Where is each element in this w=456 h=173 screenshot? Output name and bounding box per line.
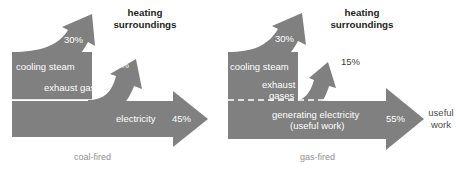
panel-gas-fired: heating surroundings 30% cooling steam 1… — [228, 0, 456, 173]
coal-electricity-percent: 45% — [172, 114, 191, 125]
gas-exhaust-gases-label-line2: gases — [269, 91, 294, 102]
panel-coal-fired: heating surroundings 30% cooling steam 2… — [0, 0, 228, 173]
coal-electricity-label: electricity — [116, 114, 156, 125]
coal-heading-line2: surroundings — [113, 19, 176, 30]
coal-caption: coal-fired — [74, 152, 111, 162]
gas-caption: gas-fired — [300, 152, 335, 162]
gas-generating-label-line2: (useful work) — [290, 121, 344, 132]
coal-heading: heating surroundings — [95, 7, 195, 31]
gas-heading-line2: surroundings — [330, 19, 393, 30]
gas-useful-work-line1: useful — [428, 107, 453, 118]
gas-electricity-percent: 55% — [386, 114, 405, 125]
coal-cooling-steam-label: cooling steam — [16, 62, 75, 73]
gas-heading-line1: heating — [345, 7, 380, 18]
gas-heading: heating surroundings — [312, 7, 412, 31]
gas-useful-work-label: useful work — [424, 107, 456, 131]
gas-useful-work-line2: work — [431, 119, 451, 130]
gas-cooling-steam-percent: 30% — [275, 34, 294, 45]
coal-heading-line1: heating — [128, 7, 163, 18]
gas-exhaust-gases-percent: 15% — [341, 57, 360, 68]
gas-cooling-steam-label: cooling steam — [230, 62, 289, 73]
energy-flow-figure: heating surroundings 30% cooling steam 2… — [0, 0, 456, 173]
coal-exhaust-gases-percent: 25% — [110, 60, 129, 71]
coal-cooling-steam-percent: 30% — [64, 35, 83, 46]
coal-exhaust-gases-label: exhaust gases — [44, 83, 105, 94]
